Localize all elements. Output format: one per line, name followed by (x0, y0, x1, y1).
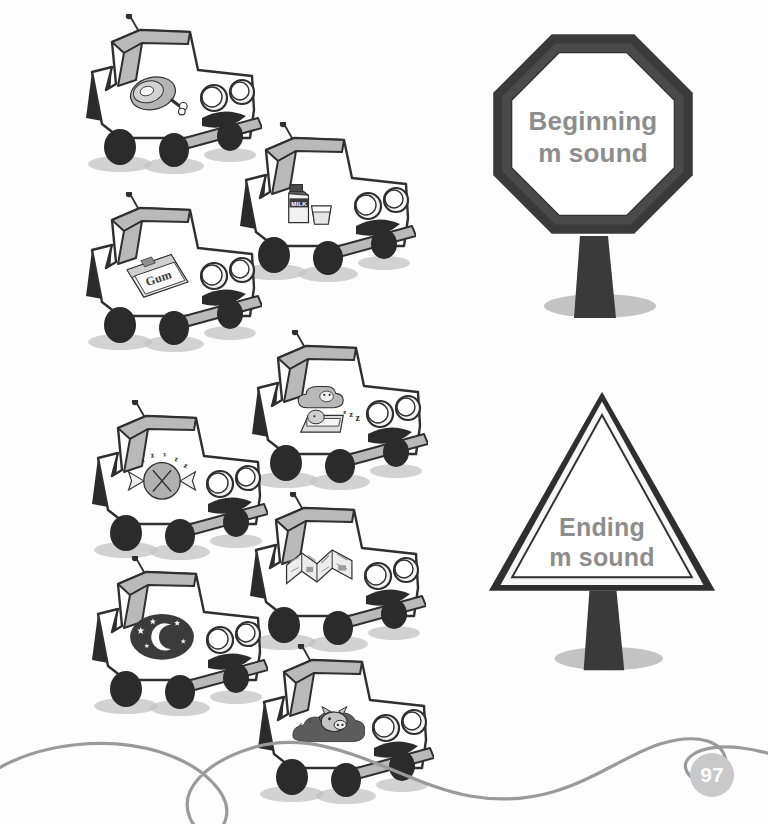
wavy-road-line (0, 0, 768, 824)
worksheet-page: MILKGumzzzzzzzz Beginningm soundEndingm … (0, 0, 768, 824)
page-number-badge: 97 (690, 753, 734, 797)
